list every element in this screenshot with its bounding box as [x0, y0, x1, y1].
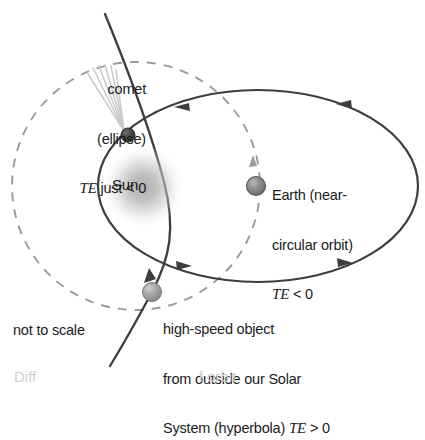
ellipse-arrow-bottom-left-icon — [176, 261, 192, 270]
comet-te-symbol: TE — [80, 180, 97, 196]
sun-label: Sun — [112, 176, 138, 193]
not-to-scale-note: not to scale — [13, 322, 85, 339]
comet-label-line2: (ellipse) — [14, 131, 146, 148]
high-speed-object-body — [143, 283, 162, 302]
hyperbola-arrow-icon — [144, 268, 156, 283]
high-speed-object-label: high-speed object from outside our Solar… — [163, 288, 330, 440]
earth-label-line1: Earth (near- — [272, 187, 353, 204]
hyperbola-label-line3: System (hyperbola) TE > 0 — [163, 420, 330, 437]
ellipse-arrow-top-right-icon — [336, 100, 352, 109]
comet-label-line1: comet — [14, 81, 146, 98]
hyperbola-te-symbol: TE — [289, 420, 306, 436]
hyperbola-label-line1: high-speed object — [163, 321, 330, 338]
comet-label: comet (ellipse) TE just < 0 — [14, 48, 146, 230]
earth-body — [247, 177, 266, 196]
hyperbola-label-prefix: System (hyperbola) — [163, 420, 289, 436]
earth-label-line2: circular orbit) — [272, 237, 353, 254]
hyperbola-te-value: > 0 — [306, 420, 330, 436]
clipped-caption: Diff f orbit — [14, 368, 236, 385]
